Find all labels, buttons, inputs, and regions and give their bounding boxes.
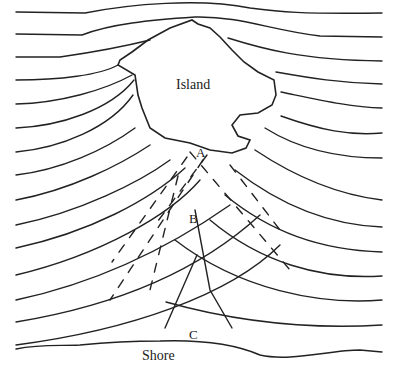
- wave-crest: [265, 128, 382, 158]
- wave-crest: [281, 116, 382, 134]
- wave-crest: [16, 17, 382, 37]
- island-label: Island: [176, 78, 210, 92]
- wave-crest: [16, 80, 134, 128]
- wave-crest: [166, 302, 382, 326]
- point-b-label: B: [189, 212, 198, 225]
- orthogonal: [165, 255, 197, 328]
- diagram-canvas: [0, 0, 394, 371]
- shore-label: Shore: [142, 349, 175, 363]
- wave-crest: [16, 160, 170, 225]
- wave-refraction-diagram: Island Shore A B C: [0, 0, 394, 371]
- wave-crest: [16, 65, 118, 80]
- point-a-label: A: [196, 146, 205, 159]
- wave-crest: [16, 245, 280, 345]
- wave-crest: [210, 220, 382, 277]
- wave-crest: [276, 72, 382, 84]
- wave-crest: [16, 3, 382, 13]
- wave-crest: [225, 195, 382, 252]
- wave-crest: [281, 92, 382, 108]
- wave-crest: [16, 168, 185, 248]
- wave-crest: [16, 145, 150, 200]
- point-c-label: C: [189, 328, 198, 341]
- orthogonal: [190, 152, 290, 270]
- wave-crest: [16, 128, 135, 175]
- orthogonal: [110, 160, 203, 300]
- shoreline: [16, 341, 382, 357]
- wave-crest: [16, 40, 150, 57]
- wave-crest: [228, 38, 382, 61]
